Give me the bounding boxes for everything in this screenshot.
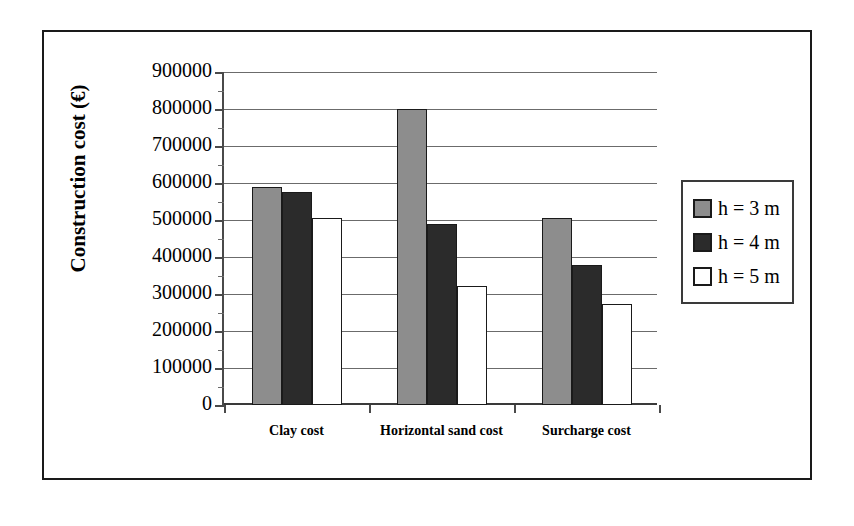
legend-item[interactable]: h = 3 m (693, 191, 780, 225)
bar[interactable] (252, 187, 282, 405)
y-axis-tick-label: 300000 (62, 281, 212, 304)
x-axis-tick (224, 405, 226, 413)
bar[interactable] (312, 218, 342, 405)
bar[interactable] (602, 304, 632, 405)
y-axis-tick (215, 257, 224, 259)
x-axis-tick (659, 405, 661, 413)
x-axis-category-label: Horizontal sand cost (369, 423, 514, 439)
legend-swatch-icon (693, 233, 712, 252)
bar[interactable] (542, 218, 572, 405)
bar[interactable] (572, 265, 602, 405)
y-axis-tick-label: 600000 (62, 170, 212, 193)
y-axis-tick (215, 331, 224, 333)
x-axis-category-label: Clay cost (224, 423, 369, 439)
y-axis-tick-label: 700000 (62, 133, 212, 156)
legend-item[interactable]: h = 4 m (693, 225, 780, 259)
y-axis-tick (215, 368, 224, 370)
bar-group (252, 72, 342, 405)
legend-label: h = 4 m (718, 231, 780, 254)
legend-swatch-icon (693, 199, 712, 218)
y-axis-tick-label: 500000 (62, 207, 212, 230)
bar-series-container (224, 72, 657, 405)
x-axis-category-label: Surcharge cost (514, 423, 659, 439)
x-axis-tick (369, 405, 371, 413)
y-axis-tick-label: 400000 (62, 244, 212, 267)
legend-swatch-icon (693, 267, 712, 286)
bar-group (397, 72, 487, 405)
y-axis-tick (215, 294, 224, 296)
bar[interactable] (427, 224, 457, 405)
y-axis-tick (215, 220, 224, 222)
y-axis-tick (215, 146, 224, 148)
x-axis-tick (514, 405, 516, 413)
y-axis-tick (215, 183, 224, 185)
chart-legend: h = 3 mh = 4 mh = 5 m (681, 180, 794, 304)
bar[interactable] (282, 192, 312, 405)
y-axis-tick (215, 405, 224, 407)
y-axis-tick-label: 900000 (62, 59, 212, 82)
y-axis-tick-label: 800000 (62, 96, 212, 119)
bar[interactable] (457, 286, 487, 406)
y-axis-tick-label: 100000 (62, 355, 212, 378)
y-axis-tick (215, 109, 224, 111)
y-axis-tick-label: 200000 (62, 318, 212, 341)
bar[interactable] (397, 109, 427, 405)
legend-label: h = 3 m (718, 197, 780, 220)
plot-area: Clay costHorizontal sand costSurcharge c… (222, 72, 657, 405)
y-axis-tick (215, 72, 224, 74)
y-axis-tick-label: 0 (62, 392, 212, 415)
legend-item[interactable]: h = 5 m (693, 259, 780, 293)
chart-figure: Construction cost (€) 010000020000030000… (0, 0, 854, 526)
bar-group (542, 72, 632, 405)
legend-label: h = 5 m (718, 265, 780, 288)
